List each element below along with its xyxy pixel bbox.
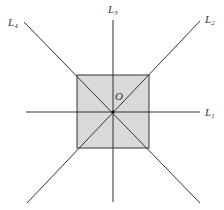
label-l4: L4 xyxy=(7,16,18,30)
symmetry-lines-diagram: O L1 L2 L3 L4 xyxy=(0,0,224,210)
center-label: O xyxy=(115,90,123,102)
label-l1: L1 xyxy=(204,106,215,120)
label-l2: L2 xyxy=(204,13,215,27)
center-point xyxy=(112,111,115,114)
label-l3: L3 xyxy=(107,3,118,17)
diagram-svg: O L1 L2 L3 L4 xyxy=(0,0,224,210)
